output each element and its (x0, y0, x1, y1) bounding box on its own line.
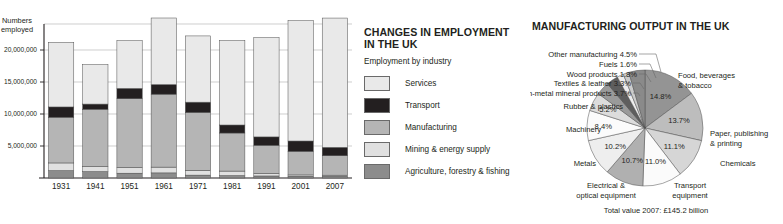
pie-chart-svg: 14.8%13.7%11.1%11.0%10.7%10.2%8.4%5.2%Ot… (530, 20, 783, 224)
y-axis-tick-label: 20,000,000 (4, 46, 37, 53)
pie-outside-label: Metals (574, 159, 597, 168)
bar-segment (288, 151, 313, 175)
legend-swatch (364, 142, 390, 157)
pie-outside-label: Chemicals (720, 159, 756, 168)
pie-outside-label: Textiles & leather 3.3% (554, 79, 631, 88)
bar-segment (322, 156, 347, 176)
pie-slice-percent: 11.1% (664, 142, 685, 151)
legend-item-label: Agriculture, forestry & fishing (405, 167, 510, 176)
bar-segment (288, 176, 313, 178)
x-axis-category-label: 2007 (326, 182, 345, 191)
bar-segment (254, 176, 279, 178)
employment-panel-title: CHANGES IN EMPLOYMENT IN THE UK (364, 26, 532, 50)
bar-segment (288, 21, 313, 141)
bar-chart-svg: Numbersemployed5,000,00010,000,00015,000… (0, 0, 360, 224)
bar-segment (220, 125, 245, 133)
bar-segment (220, 171, 245, 175)
bar-segment (117, 167, 142, 173)
legend-swatch (364, 164, 390, 179)
bar-segment (151, 173, 176, 178)
bar-column (322, 18, 347, 178)
employment-title-line2: IN THE UK (364, 38, 417, 50)
bar-segment (185, 36, 210, 102)
y-axis-tick-label: 10,000,000 (4, 110, 37, 117)
bar-segment (185, 175, 210, 178)
bar-segment (254, 137, 279, 145)
legend-swatch (364, 98, 390, 113)
bar-segment (185, 170, 210, 175)
bar-column (83, 65, 108, 178)
bar-segment (254, 145, 279, 173)
legend-swatch (364, 76, 390, 91)
legend-item: Agriculture, forestry & fishing (364, 160, 532, 182)
employment-bar-chart: Numbersemployed5,000,00010,000,00015,000… (0, 0, 360, 224)
x-axis-category-label: 1981 (223, 182, 242, 191)
bar-segment (151, 18, 176, 85)
bar-segment (220, 176, 245, 178)
bar-segment (322, 18, 347, 147)
pie-outside-label: Electrical & (587, 181, 625, 190)
bar-column (288, 21, 313, 178)
y-axis-title-line1: Numbers (2, 16, 32, 25)
legend-item-label: Services (405, 79, 436, 88)
pie-total-value-label: Total value 2007: £145.2 billion (604, 206, 708, 215)
bar-segment (83, 166, 108, 171)
pie-outside-label: & tobacco (678, 81, 712, 90)
pie-outside-label: equipment (672, 191, 708, 200)
legend-item: Transport (364, 94, 532, 116)
x-axis-category-label: 1961 (155, 182, 174, 191)
pie-slice-percent: 10.7% (622, 156, 644, 165)
bar-segment (48, 107, 73, 117)
bar-column (185, 36, 210, 178)
legend-item: Manufacturing (364, 116, 532, 138)
bar-segment (185, 102, 210, 112)
pie-slice-percent: 13.7% (668, 116, 690, 125)
pie-outside-label: & printing (710, 139, 742, 148)
pie-leader-line (639, 54, 661, 72)
bar-segment (185, 112, 210, 170)
bar-segment (48, 42, 73, 107)
bar-segment (83, 172, 108, 178)
bar-segment (48, 117, 73, 163)
bar-segment (322, 147, 347, 155)
bar-column (117, 41, 142, 178)
x-axis-category-label: 1951 (120, 182, 139, 191)
bar-column (151, 18, 176, 178)
legend-item: Services (364, 72, 532, 94)
pie-outside-label: Rubber & plastics (563, 102, 623, 111)
legend-item-label: Manufacturing (405, 123, 457, 132)
bar-segment (117, 99, 142, 168)
bar-segment (83, 65, 108, 104)
bar-segment (288, 141, 313, 151)
pie-outside-label: Other manufacturing 4.5% (548, 50, 637, 59)
x-axis-category-label: 1991 (257, 182, 276, 191)
bar-segment (151, 85, 176, 95)
bar-column (48, 42, 73, 178)
x-axis-category-label: 1971 (189, 182, 208, 191)
legend-swatch (364, 120, 390, 135)
bar-segment (322, 176, 347, 178)
pie-slice-percent: 10.2% (604, 142, 626, 151)
bar-segment (220, 133, 245, 171)
x-axis-category-label: 1941 (86, 182, 105, 191)
bar-segment (117, 41, 142, 89)
bar-segment (117, 88, 142, 98)
bar-segment (48, 163, 73, 171)
bar-segment (83, 109, 108, 166)
bar-segment (117, 173, 142, 178)
bar-segment (254, 38, 279, 137)
legend-list: ServicesTransportManufacturingMining & e… (364, 72, 532, 182)
pie-outside-label: Fuels 1.6% (599, 60, 637, 69)
legend-item-label: Mining & energy supply (405, 145, 490, 154)
employment-subtitle: Employment by industry (364, 57, 532, 66)
pie-outside-label: Non-metal mineral products 3.7% (530, 89, 631, 98)
bar-segment (151, 167, 176, 173)
x-axis-category-label: 1931 (52, 182, 71, 191)
bar-segment (48, 171, 73, 178)
bar-segment (254, 173, 279, 176)
y-axis-tick-label: 5,000,000 (8, 142, 38, 149)
manufacturing-pie-panel: MANUFACTURING OUTPUT IN THE UK 14.8%13.7… (530, 20, 783, 224)
infographic-page: Numbersemployed5,000,00010,000,00015,000… (0, 0, 783, 224)
pie-outside-label: Paper, publishing (710, 129, 768, 138)
bar-segment (220, 41, 245, 125)
